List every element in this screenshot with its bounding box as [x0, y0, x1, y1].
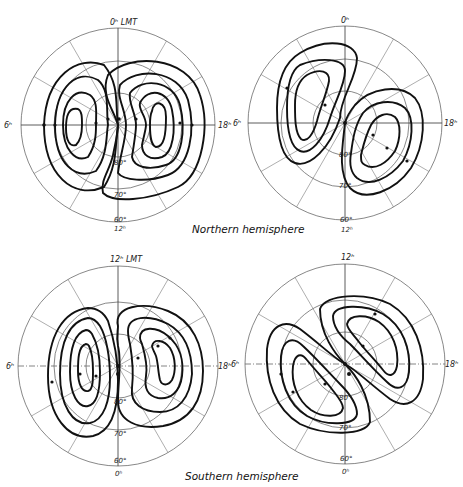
label-60: 60° [114, 216, 126, 224]
label-top: 0ʰ [341, 16, 349, 25]
label-70: 70° [339, 424, 351, 432]
polar-diagram-figure: 0ʰ LMT 6ʰ 18ʰ 80° 70° 60° 12ʰ [0, 0, 463, 487]
label-70: 70° [339, 182, 351, 190]
label-left: 6ʰ [233, 119, 241, 128]
label-right: 18ʰ [444, 119, 457, 128]
label-80: 80° [114, 398, 126, 406]
label-top: 0ʰ LMT [110, 18, 138, 27]
label-80: 80° [339, 394, 351, 402]
panel-north-right: 0ʰ 6ʰ 18ʰ 80° 70° 60° 12ʰ [233, 16, 457, 234]
caption-southern: Southern hemisphere [185, 470, 299, 482]
label-70: 70° [114, 430, 126, 438]
label-left: 6ʰ [231, 360, 239, 369]
label-70: 70° [114, 191, 126, 199]
label-right: 18ʰ [218, 362, 231, 371]
label-top: 12ʰ LMT [110, 255, 143, 264]
label-left: 6ʰ [6, 362, 14, 371]
label-bottom: 0ʰ [342, 468, 349, 476]
label-left: 6ʰ [4, 121, 12, 130]
label-bottom: 12ʰ [341, 226, 353, 234]
contour-lines [48, 306, 203, 437]
panel-south-left: 12ʰ LMT 6ʰ 18ʰ 80° 70° 60° 0ʰ [6, 255, 231, 478]
contour-lines [44, 61, 204, 199]
label-bottom: 0ʰ [115, 470, 122, 478]
label-80: 80° [114, 159, 126, 167]
label-right: 18ʰ [218, 121, 231, 130]
panel-south-right: 12ʰ 6ʰ 18ʰ 80° 70° 60° 0ʰ [231, 253, 458, 476]
label-80: 80° [339, 151, 351, 159]
caption-northern: Northern hemisphere [192, 223, 304, 235]
label-bottom: 12ʰ [114, 225, 126, 233]
label-60: 60° [340, 455, 352, 463]
label-right: 18ʰ [445, 360, 458, 369]
label-60: 60° [340, 216, 352, 224]
label-60: 60° [114, 457, 126, 465]
contour-lines [277, 43, 423, 194]
panel-north-left: 0ʰ LMT 6ʰ 18ʰ 80° 70° 60° 12ʰ [4, 18, 231, 233]
label-top: 12ʰ [341, 253, 354, 262]
